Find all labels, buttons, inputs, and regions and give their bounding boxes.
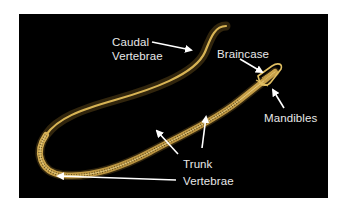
mandibles-arrow — [273, 90, 284, 108]
snake-skeleton-illustration — [0, 0, 346, 208]
mandibles-label: Mandibles — [264, 112, 317, 126]
braincase-label: Braincase — [217, 48, 269, 62]
trunk-vertebrae-label: Trunk Vertebrae — [183, 156, 234, 190]
caudal-label-line2: Vertebrae — [112, 50, 163, 64]
braincase-label-text: Braincase — [217, 48, 269, 62]
caudal-vertebrae-label: Caudal Vertebrae — [112, 36, 163, 63]
mandibles-label-text: Mandibles — [264, 112, 317, 126]
caudal-label-line1: Caudal — [112, 36, 163, 50]
trunk-label-line2: Vertebrae — [183, 173, 234, 190]
trunk-label-line1: Trunk — [183, 156, 234, 173]
